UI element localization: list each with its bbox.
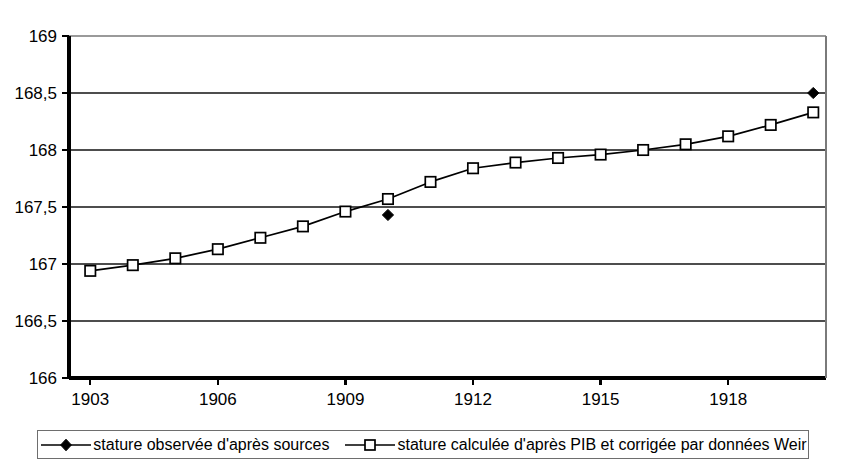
legend-label-observed: stature observée d'après sources	[93, 437, 329, 453]
data-point-marker	[340, 206, 350, 216]
legend-entry-calculated[interactable]: stature calculée d'après PIB et corrigée…	[343, 437, 806, 453]
data-point-marker	[680, 139, 690, 149]
data-point-marker	[553, 153, 563, 163]
data-point-marker	[170, 253, 180, 263]
data-point-marker	[213, 244, 223, 254]
y-tick-label: 166,5	[14, 312, 57, 331]
data-point-marker	[255, 233, 265, 243]
x-axis-tick-labels: 190319061909191219151918	[71, 390, 747, 409]
data-point-marker	[595, 149, 605, 159]
x-tick-label: 1903	[71, 390, 109, 409]
data-point-marker	[766, 120, 776, 130]
data-point-marker	[425, 177, 435, 187]
tickmark-group	[62, 36, 728, 385]
data-point-marker	[468, 163, 478, 173]
data-point-marker	[298, 221, 308, 231]
x-tick-label: 1918	[709, 390, 747, 409]
legend-entry-observed[interactable]: stature observée d'après sources	[39, 437, 329, 453]
data-point-marker	[382, 209, 393, 220]
data-point-marker	[128, 260, 138, 270]
chart-plot-area: 166166,5167167,5168168,5169 190319061909…	[0, 0, 846, 473]
data-point-marker	[808, 87, 819, 98]
series-line-1	[90, 112, 813, 270]
x-tick-label: 1912	[454, 390, 492, 409]
y-tick-label: 167	[29, 255, 57, 274]
open-square-icon	[343, 437, 397, 453]
x-tick-label: 1906	[199, 390, 237, 409]
y-tick-label: 168,5	[14, 84, 57, 103]
gridline-group	[69, 36, 826, 321]
legend-label-calculated: stature calculée d'après PIB et corrigée…	[397, 437, 806, 453]
y-axis-tick-labels: 166166,5167167,5168168,5169	[14, 27, 57, 388]
data-point-marker	[808, 107, 818, 117]
data-point-marker	[510, 157, 520, 167]
x-tick-label: 1909	[327, 390, 365, 409]
chart-legend: stature observée d'après sources stature…	[37, 430, 809, 459]
chart-container: 166166,5167167,5168168,5169 190319061909…	[0, 0, 846, 473]
y-tick-label: 169	[29, 27, 57, 46]
filled-diamond-icon	[39, 437, 93, 453]
y-tick-label: 167,5	[14, 198, 57, 217]
y-tick-label: 168	[29, 141, 57, 160]
x-tick-label: 1915	[582, 390, 620, 409]
data-point-marker	[85, 266, 95, 276]
y-tick-label: 166	[29, 369, 57, 388]
data-point-marker	[383, 194, 393, 204]
series-lines	[90, 112, 813, 270]
data-point-marker	[638, 145, 648, 155]
data-point-marker	[723, 131, 733, 141]
series-markers	[85, 87, 819, 276]
